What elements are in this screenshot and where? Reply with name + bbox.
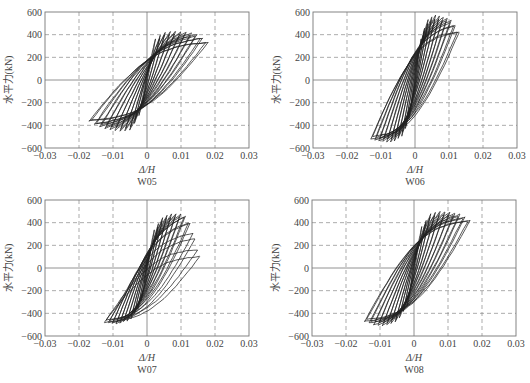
specimen-caption: W06	[405, 176, 424, 187]
x-tick-label: 0.01	[439, 338, 457, 349]
x-tick-label: 0	[145, 338, 150, 349]
y-tick-label: 0	[37, 263, 42, 274]
y-tick-label: 0	[37, 75, 42, 86]
y-tick-label: 200	[294, 240, 309, 251]
x-tick-label: 0.02	[474, 150, 492, 161]
y-tick-label: −200	[21, 285, 42, 296]
x-tick-label: −0.01	[101, 150, 124, 161]
x-tick-label: −0.02	[67, 338, 90, 349]
y-tick-label: 600	[27, 7, 42, 18]
x-tick-label: −0.02	[335, 150, 358, 161]
y-tick-label: −600	[288, 331, 309, 342]
y-tick-label: 400	[27, 29, 42, 40]
y-tick-label: 400	[294, 217, 309, 228]
y-tick-label: −400	[288, 308, 309, 319]
y-tick-label: −200	[21, 97, 42, 108]
specimen-caption: W08	[404, 364, 423, 375]
y-tick-label: 400	[27, 217, 42, 228]
x-tick-label: 0.03	[508, 150, 526, 161]
x-tick-label: 0	[413, 150, 418, 161]
y-axis-label: 水平力(kN)	[2, 244, 15, 293]
x-tick-label: 0.02	[473, 338, 491, 349]
x-tick-label: −0.01	[369, 150, 392, 161]
x-tick-label: −0.02	[334, 338, 357, 349]
x-tick-label: 0	[145, 150, 150, 161]
y-tick-label: −600	[289, 143, 310, 154]
x-tick-label: 0.03	[240, 150, 258, 161]
x-tick-label: 0.02	[206, 338, 224, 349]
x-axis-label: Δ/H	[405, 352, 423, 363]
x-tick-label: 0.02	[206, 150, 224, 161]
y-tick-label: 400	[295, 29, 310, 40]
x-tick-label: 0.01	[172, 338, 190, 349]
y-tick-label: 600	[27, 195, 42, 206]
hysteresis-curves	[89, 31, 208, 131]
chart-panel-w08: −0.03−0.02−0.0100.010.020.036004002000−2…	[267, 188, 530, 379]
y-tick-label: −200	[289, 97, 310, 108]
chart-panel-w05: −0.03−0.02−0.0100.010.020.036004002000−2…	[0, 0, 265, 191]
x-tick-label: −0.01	[101, 338, 124, 349]
x-axis-label: Δ/H	[138, 164, 156, 175]
y-tick-label: 0	[304, 263, 309, 274]
x-axis-label: Δ/H	[138, 352, 156, 363]
x-tick-label: 0.03	[240, 338, 258, 349]
x-tick-label: 0.01	[440, 150, 458, 161]
chart-panel-w07: −0.03−0.02−0.0100.010.020.036004002000−2…	[0, 188, 265, 379]
specimen-caption: W07	[137, 364, 156, 375]
y-tick-label: 200	[27, 240, 42, 251]
x-tick-label: 0.03	[507, 338, 525, 349]
chart-panel-w06: −0.03−0.02−0.0100.010.020.036004002000−2…	[268, 0, 530, 191]
y-tick-label: −200	[288, 285, 309, 296]
y-tick-label: 200	[295, 52, 310, 63]
x-tick-label: 0.01	[172, 150, 190, 161]
y-tick-label: 600	[294, 195, 309, 206]
y-tick-label: −600	[21, 331, 42, 342]
y-tick-label: −600	[21, 143, 42, 154]
y-tick-label: −400	[289, 120, 310, 131]
y-tick-label: 200	[27, 52, 42, 63]
y-axis-label: 水平力(kN)	[269, 244, 282, 293]
x-tick-label: −0.02	[67, 150, 90, 161]
x-tick-label: −0.01	[368, 338, 391, 349]
hysteresis-curves	[365, 211, 470, 326]
y-tick-label: −400	[21, 308, 42, 319]
x-axis-label: Δ/H	[406, 164, 424, 175]
specimen-caption: W05	[137, 176, 156, 187]
hysteresis-curves	[105, 214, 200, 324]
y-tick-label: 600	[295, 7, 310, 18]
y-tick-label: −400	[21, 120, 42, 131]
x-tick-label: 0	[412, 338, 417, 349]
y-axis-label: 水平力(kN)	[2, 56, 15, 105]
y-axis-label: 水平力(kN)	[270, 56, 283, 105]
y-tick-label: 0	[305, 75, 310, 86]
